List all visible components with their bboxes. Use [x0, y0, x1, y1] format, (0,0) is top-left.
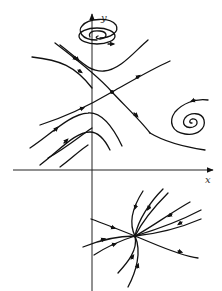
- right-spiral: [172, 100, 208, 135]
- saddle-point: [110, 90, 114, 94]
- node-point: [133, 234, 137, 238]
- top-center-spiral: [79, 19, 117, 44]
- saddle-trajectories: [30, 40, 205, 167]
- phase-portrait-diagram: y x: [0, 0, 222, 291]
- x-axis-label: x: [205, 174, 211, 185]
- axes: y x: [13, 12, 213, 291]
- node-trajectories: [83, 189, 201, 287]
- y-axis-label: y: [100, 12, 107, 23]
